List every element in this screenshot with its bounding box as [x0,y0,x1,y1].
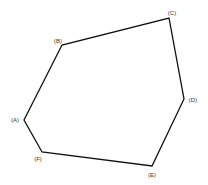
vertex-labels: (A) (B) (C) (D) (E) (F) [11,10,197,178]
vertex-label-b: (B) [54,38,62,44]
vertex-label-a: (A) [11,117,19,123]
vertex-label-e: (E) [148,172,156,178]
vertex-label-c: (C) [168,10,176,16]
vertex-label-d: (D) [189,97,197,103]
vertex-label-f: (F) [34,156,42,162]
hexagon-shape [24,18,184,166]
hexagon-diagram: (A) (B) (C) (D) (E) (F) [0,0,208,185]
